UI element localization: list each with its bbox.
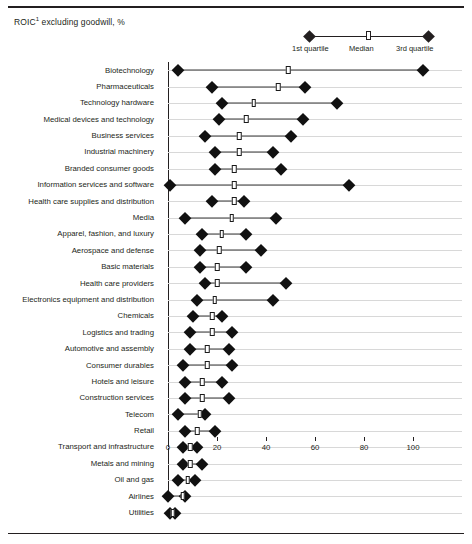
category-label-row: Branded consumer goods bbox=[0, 160, 160, 176]
q1-diamond-icon bbox=[184, 343, 196, 355]
q1-diamond-icon bbox=[196, 228, 208, 240]
q1-diamond-icon bbox=[186, 310, 198, 322]
median-marker-icon bbox=[232, 181, 237, 189]
category-label: Metals and mining bbox=[91, 458, 154, 469]
axis-tick-label: 80 bbox=[360, 443, 369, 452]
category-label-row: Electronics equipment and distribution bbox=[0, 291, 160, 307]
median-marker-icon bbox=[198, 410, 203, 418]
q1-diamond-icon bbox=[179, 376, 191, 388]
category-label: Health care supplies and distribution bbox=[28, 196, 154, 207]
q1-diamond-icon bbox=[162, 490, 174, 502]
table-row bbox=[160, 177, 472, 193]
page-title: ROIC1 excluding goodwill, % bbox=[14, 16, 125, 27]
median-marker-icon bbox=[237, 132, 242, 140]
table-row bbox=[160, 193, 472, 209]
quartile-range-line bbox=[205, 135, 291, 136]
q3-diamond-icon bbox=[267, 294, 279, 306]
category-label-row: Logistics and trading bbox=[0, 324, 160, 340]
q1-diamond-icon bbox=[179, 212, 191, 224]
category-label: Hotels and leisure bbox=[92, 376, 154, 387]
category-label-row: Biotechnology bbox=[0, 62, 160, 78]
median-marker-icon bbox=[286, 66, 291, 74]
table-row bbox=[160, 144, 472, 160]
category-label-row: Health care providers bbox=[0, 275, 160, 291]
q3-diamond-icon bbox=[343, 179, 355, 191]
category-label: Medical devices and technology bbox=[43, 114, 154, 125]
table-row bbox=[160, 324, 472, 340]
axis-tick-label: 100 bbox=[406, 443, 419, 452]
category-label-row: Oil and gas bbox=[0, 472, 160, 488]
category-label-row: Metals and mining bbox=[0, 455, 160, 471]
table-row bbox=[160, 111, 472, 127]
median-marker-icon bbox=[210, 328, 215, 336]
q1-diamond-icon bbox=[172, 474, 184, 486]
gridline bbox=[168, 464, 462, 465]
table-row bbox=[160, 505, 472, 521]
chart-rows bbox=[160, 62, 472, 499]
legend-q1-diamond-icon bbox=[303, 30, 316, 43]
table-row bbox=[160, 406, 472, 422]
q1-diamond-icon bbox=[206, 195, 218, 207]
q1-diamond-icon bbox=[172, 64, 184, 76]
q1-diamond-icon bbox=[194, 261, 206, 273]
q3-diamond-icon bbox=[216, 310, 228, 322]
q3-diamond-icon bbox=[216, 376, 228, 388]
median-marker-icon bbox=[212, 296, 217, 304]
table-row bbox=[160, 275, 472, 291]
category-label: Transport and infrastructure bbox=[58, 441, 154, 452]
median-marker-icon bbox=[232, 197, 237, 205]
quartile-range-line bbox=[197, 299, 273, 300]
quartile-range-line bbox=[200, 250, 261, 251]
category-label-row: Utilities bbox=[0, 505, 160, 521]
q1-diamond-icon bbox=[209, 163, 221, 175]
axis-tick-label: 40 bbox=[262, 443, 271, 452]
axis-tick-label: 0 bbox=[166, 443, 170, 452]
table-row bbox=[160, 259, 472, 275]
q1-diamond-icon bbox=[213, 113, 225, 125]
quartile-range-line bbox=[178, 70, 423, 71]
page-title-rest: excluding goodwill, % bbox=[39, 17, 125, 27]
q1-diamond-icon bbox=[209, 146, 221, 158]
category-label-row: Chemicals bbox=[0, 308, 160, 324]
q3-diamond-icon bbox=[238, 195, 250, 207]
table-row bbox=[160, 488, 472, 504]
category-label: Pharmaceuticals bbox=[96, 81, 154, 92]
table-row bbox=[160, 62, 472, 78]
quartile-range-line bbox=[215, 168, 281, 169]
category-label: Airlines bbox=[128, 491, 154, 502]
axis-tick bbox=[266, 437, 267, 441]
category-label-row: Aerospace and defense bbox=[0, 242, 160, 258]
category-label: Construction services bbox=[79, 392, 154, 403]
median-marker-icon bbox=[200, 394, 205, 402]
median-marker-icon bbox=[252, 99, 257, 107]
q1-diamond-icon bbox=[206, 81, 218, 93]
q1-diamond-icon bbox=[179, 425, 191, 437]
quartile-range-line bbox=[170, 184, 349, 185]
q3-diamond-icon bbox=[417, 64, 429, 76]
q1-diamond-icon bbox=[179, 392, 191, 404]
table-row bbox=[160, 308, 472, 324]
axis-tick bbox=[217, 437, 218, 441]
table-row bbox=[160, 210, 472, 226]
category-label: Consumer durables bbox=[86, 360, 154, 371]
category-label: Utilities bbox=[129, 507, 154, 518]
category-label: Health care providers bbox=[80, 278, 154, 289]
bottom-rule bbox=[8, 533, 464, 534]
q3-diamond-icon bbox=[284, 130, 296, 142]
gridline bbox=[168, 513, 462, 514]
q1-diamond-icon bbox=[177, 359, 189, 371]
category-label-row: Pharmaceuticals bbox=[0, 78, 160, 94]
axis-tick-label: 60 bbox=[311, 443, 320, 452]
median-marker-icon bbox=[185, 476, 190, 484]
legend-labels: 1st quartile Median 3rd quartile bbox=[292, 44, 448, 56]
category-label: Information services and software bbox=[37, 179, 154, 190]
category-label-row: Consumer durables bbox=[0, 357, 160, 373]
q3-diamond-icon bbox=[331, 97, 343, 109]
q3-diamond-icon bbox=[270, 212, 282, 224]
q3-diamond-icon bbox=[226, 359, 238, 371]
table-row bbox=[160, 128, 472, 144]
table-row bbox=[160, 242, 472, 258]
median-marker-icon bbox=[200, 378, 205, 386]
category-label-row: Telecom bbox=[0, 406, 160, 422]
median-marker-icon bbox=[205, 345, 210, 353]
